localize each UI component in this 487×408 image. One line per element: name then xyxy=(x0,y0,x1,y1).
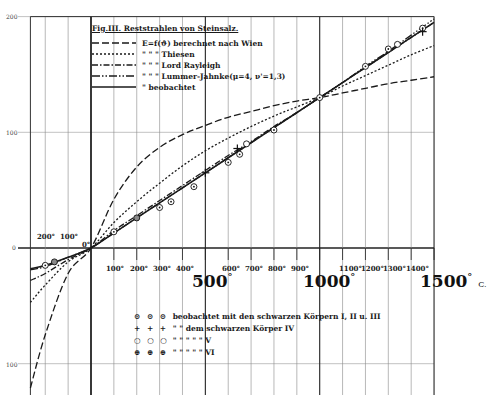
legend-row-lummer-jahnke: " " " Lummer-Jahnke(μ=4, ν'=1,3) xyxy=(142,72,285,81)
x-tick-neg200: 200° xyxy=(37,232,55,241)
y-tick-neg100: 100 xyxy=(6,361,17,368)
obs-symbol-crossed-circle-icon: ⊕ ⊕ ⊕ xyxy=(134,348,170,357)
x-tick-300: 300° xyxy=(153,264,171,273)
x-tick-200: 200° xyxy=(130,264,148,273)
x-tick-1500-major: 1500° C. xyxy=(420,271,487,291)
y-tick-100: 100 xyxy=(6,129,17,136)
x-tick-500-major: 500° xyxy=(192,271,233,291)
obs-legend-text: " " dem schwarzen Körper IV xyxy=(173,324,294,333)
obs-legend-row-3: ○ ○ ○ " " " " " V xyxy=(134,336,211,345)
legend-row-beobachtet: " beobachtet xyxy=(142,83,195,92)
obs-symbol-circle-icon: ○ ○ ○ xyxy=(134,336,170,345)
obs-legend-text: " " " " " VI xyxy=(173,348,215,357)
legend-row-wien: E=f(ϑ) berechnet nach Wien xyxy=(142,39,263,48)
x-tick-neg100: 100° xyxy=(60,232,78,241)
x-tick-1000-major: 1000° xyxy=(303,271,355,291)
obs-legend-text: beobachtet mit den schwarzen Körpern I, … xyxy=(173,312,381,321)
x-tick-1200: 1200° xyxy=(361,264,384,273)
y-tick-0: 0 xyxy=(12,244,16,251)
x-tick-0: 0° xyxy=(82,240,90,249)
obs-legend-row-1: ⊙ ⊙ ⊙ beobachtet mit den schwarzen Körpe… xyxy=(134,312,381,321)
legend-row-thiesen: " " " Thiesen xyxy=(142,50,195,59)
obs-legend-row-2: + + + " " dem schwarzen Körper IV xyxy=(134,324,294,333)
x-tick-800: 800° xyxy=(268,264,286,273)
obs-symbol-plus-icon: + + + xyxy=(134,324,170,333)
legend-row-rayleigh: " " " Lord Rayleigh xyxy=(142,61,220,70)
x-tick-700: 700° xyxy=(245,264,263,273)
legend-title: Fig.III. Reststrahlen von Steinsalz. xyxy=(92,24,238,33)
observation-markers xyxy=(42,25,426,268)
obs-legend-text: " " " " " V xyxy=(173,336,211,345)
obs-legend-row-4: ⊕ ⊕ ⊕ " " " " " VI xyxy=(134,348,215,357)
y-tick-200: 200 xyxy=(6,13,17,20)
x-tick-100: 100° xyxy=(106,264,124,273)
obs-symbol-dot-circle-icon: ⊙ ⊙ ⊙ xyxy=(134,312,170,321)
x-tick-1300: 1300° xyxy=(383,264,406,273)
